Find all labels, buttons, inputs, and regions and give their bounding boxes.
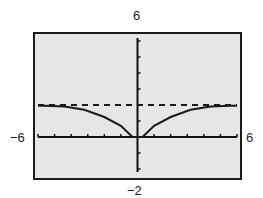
xmax-label: 6 — [246, 131, 253, 144]
graph-window — [0, 0, 263, 198]
ymax-label: 6 — [133, 9, 140, 22]
ymin-label: −2 — [127, 184, 142, 197]
xmin-label: −6 — [10, 131, 25, 144]
